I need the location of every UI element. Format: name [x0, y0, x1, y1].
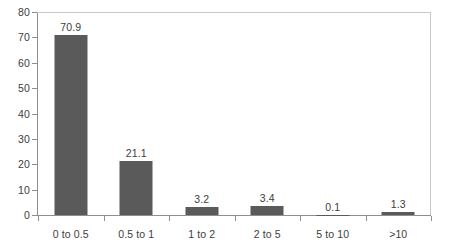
x-axis-tick-mark [38, 216, 39, 221]
y-axis-tick-mark [32, 190, 37, 191]
y-axis-tick-label: 30 [0, 134, 30, 144]
y-axis-tick-label: 50 [0, 83, 30, 93]
bar-value-label: 21.1 [126, 148, 147, 159]
bar-group: 21.1 [104, 12, 170, 215]
bar[interactable] [120, 161, 153, 215]
x-axis-tick-mark [300, 216, 301, 221]
y-axis-tick-label: 70 [0, 32, 30, 42]
bar-value-label: 0.1 [325, 202, 340, 213]
y-axis-tick-mark [32, 114, 37, 115]
y-axis-tick-mark [32, 215, 37, 216]
x-axis-category-label: 2 to 5 [254, 228, 281, 240]
bar[interactable] [251, 206, 284, 215]
x-axis-tick-mark [235, 216, 236, 221]
bar-value-label: 3.4 [260, 193, 275, 204]
x-axis-category-label: 1 to 2 [188, 228, 215, 240]
x-axis-category-label: >10 [389, 228, 407, 240]
bar[interactable] [54, 35, 87, 215]
y-axis-tick-mark [32, 88, 37, 89]
bar[interactable] [185, 207, 218, 215]
bar-value-label: 3.2 [194, 194, 209, 205]
bar-group: 70.9 [38, 12, 104, 215]
x-axis-tick-mark [169, 216, 170, 221]
y-axis-tick-label: 40 [0, 109, 30, 119]
y-axis-tick-label: 0 [0, 210, 30, 220]
bar-group: 3.2 [169, 12, 235, 215]
bar-group: 0.1 [300, 12, 366, 215]
bar-group: 3.4 [235, 12, 301, 215]
y-axis: 01020304050607080 [0, 0, 30, 251]
y-axis-tick-mark [32, 139, 37, 140]
bar[interactable] [382, 212, 415, 215]
y-axis-tick-mark [32, 63, 37, 64]
y-axis-tick-mark [32, 37, 37, 38]
plot-area: 70.921.13.23.40.11.3 [38, 12, 431, 215]
y-axis-tick-mark [32, 164, 37, 165]
x-axis-tick-mark [366, 216, 367, 221]
x-axis-category-label: 0.5 to 1 [118, 228, 154, 240]
bar-value-label: 70.9 [60, 22, 81, 33]
bar-chart: 01020304050607080 70.921.13.23.40.11.3 0… [0, 0, 452, 251]
y-axis-tick-label: 60 [0, 58, 30, 68]
bar-group: 1.3 [366, 12, 432, 215]
x-axis-tick-mark [104, 216, 105, 221]
x-axis-tick-mark [431, 216, 432, 221]
bar-value-label: 1.3 [391, 199, 406, 210]
x-axis-category-label: 5 to 10 [316, 228, 349, 240]
y-axis-tick-label: 20 [0, 159, 30, 169]
y-axis-tick-mark [32, 12, 37, 13]
x-axis-category-label: 0 to 0.5 [53, 228, 89, 240]
y-axis-tick-label: 10 [0, 185, 30, 195]
y-axis-tick-label: 80 [0, 7, 30, 17]
